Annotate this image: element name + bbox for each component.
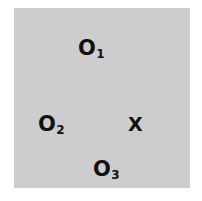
point-o3: O3 (93, 159, 120, 180)
point-o1-letter: O (78, 36, 95, 60)
point-o2-subscript: 2 (56, 123, 64, 137)
point-o2-letter: O (38, 112, 55, 136)
point-o1-subscript: 1 (96, 47, 104, 61)
point-o1: O1 (78, 38, 105, 59)
point-o3-subscript: 3 (111, 168, 119, 182)
target-x-marker: X (128, 115, 143, 134)
point-o3-letter: O (93, 157, 110, 181)
point-o2: O2 (38, 114, 65, 135)
